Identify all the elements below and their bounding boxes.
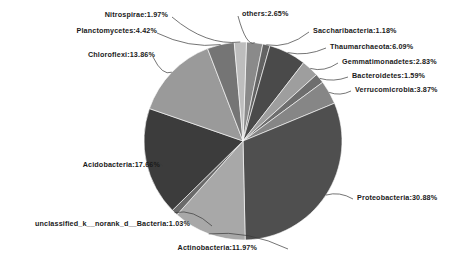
slice-label-verrucomicrobia: Verrucomicrobia:3.87% <box>355 86 438 93</box>
pie-chart: others:2.65% Saccharibacteria:1.18% Thau… <box>0 0 462 272</box>
leader-line <box>326 194 353 199</box>
slice-label-saccharibacteria: Saccharibacteria:1.18% <box>313 27 397 34</box>
slice-label-chloroflexi: Chloroflexi:13.86% <box>88 51 155 58</box>
slice-label-nitrospirae: Nitrospirae:1.97% <box>105 11 168 18</box>
leader-line <box>172 17 240 42</box>
leader-line <box>320 77 348 80</box>
leader-line <box>238 16 255 43</box>
slice-label-actinobacteria: Actinobacteria:11.97% <box>178 244 257 251</box>
pie-slices-group <box>144 42 342 240</box>
leader-line <box>288 48 326 54</box>
pie-chart-canvas <box>0 0 462 272</box>
leader-line <box>266 32 309 46</box>
slice-label-unclassified-norank-bacteria: unclassified_k__norank_d__Bacteria:1.03% <box>35 220 190 227</box>
slice-label-proteobacteria: Proteobacteria:30.88% <box>357 194 437 201</box>
leader-line <box>329 91 351 94</box>
leader-line <box>153 57 172 73</box>
slice-label-gemmatimonadetes: Gemmatimonadetes:2.83% <box>342 58 437 65</box>
leader-line <box>310 63 338 70</box>
slice-label-acidobacteria: Acidobacteria:17.66% <box>83 161 160 168</box>
slice-label-thaumarchaeota: Thaumarchaeota:6.09% <box>330 43 413 50</box>
slice-label-bacteroidetes: Bacteroidetes:1.59% <box>352 72 425 79</box>
slice-label-planctomycetes: Planctomycetes:4.42% <box>76 27 157 34</box>
slice-label-others: others:2.65% <box>242 10 289 17</box>
